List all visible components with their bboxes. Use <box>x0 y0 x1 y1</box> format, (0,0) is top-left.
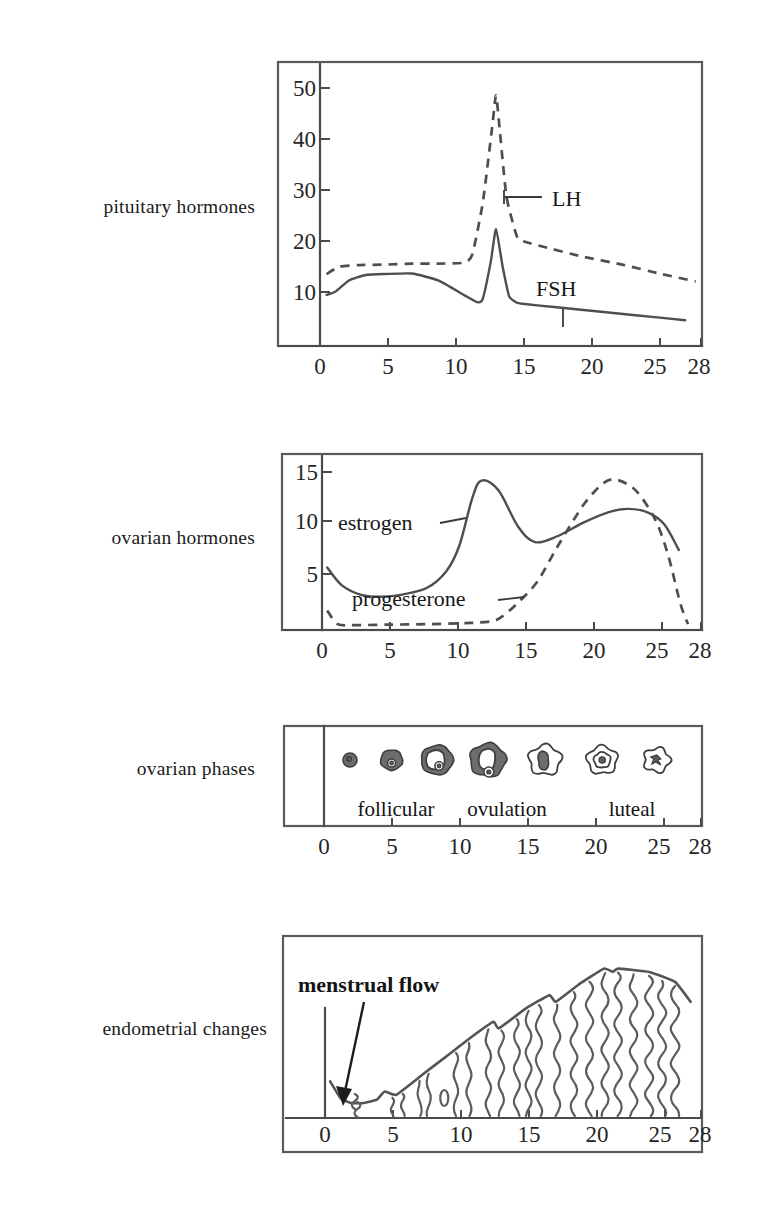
y-axis-ticks <box>322 472 332 574</box>
corpus-hemorrhagicum-clot <box>538 751 549 770</box>
y-tick-label-5: 5 <box>307 562 319 587</box>
menstrual-cycle-figure: pituitary hormones ovarian hormones ovar… <box>0 0 776 1205</box>
graafian-follicle-nucleus <box>487 770 491 774</box>
series-label-fsh: FSH <box>536 276 576 301</box>
estrogen-leader <box>440 518 466 523</box>
primary-follicle-nucleus <box>390 761 394 765</box>
chart-ovarian-phases: 0 5 10 15 20 25 28 follicular ovulation … <box>272 720 708 860</box>
y-tick-label-30: 30 <box>293 178 316 203</box>
x-tick-label-10: 10 <box>447 638 470 663</box>
y-tick-label-10: 10 <box>295 509 318 534</box>
x-tick-label-15: 15 <box>513 354 536 379</box>
x-tick-label-25: 25 <box>648 834 671 859</box>
row-label-pituitary-hormones: pituitary hormones <box>0 196 255 218</box>
x-axis-ticks <box>320 336 701 346</box>
gland <box>526 1011 532 1116</box>
follicle-pictograms <box>343 742 672 777</box>
gland <box>454 1053 459 1116</box>
x-tick-label-25: 25 <box>644 354 667 379</box>
chart-frame <box>282 454 702 630</box>
x-axis-ticks <box>325 1108 701 1118</box>
x-tick-label-10: 10 <box>450 1122 473 1147</box>
x-tick-label-15: 15 <box>517 834 540 859</box>
row-label-ovarian-hormones: ovarian hormones <box>0 527 255 549</box>
x-tick-label-28: 28 <box>689 834 712 859</box>
x-tick-label-5: 5 <box>382 354 394 379</box>
gland <box>586 982 593 1116</box>
gland <box>630 974 638 1116</box>
corpus-luteum-core <box>599 757 605 763</box>
gland <box>514 1019 520 1116</box>
gland <box>671 986 680 1116</box>
y-tick-label-10: 10 <box>293 280 316 305</box>
x-tick-label-15: 15 <box>515 638 538 663</box>
gland <box>645 976 653 1116</box>
x-tick-label-5: 5 <box>387 1122 399 1147</box>
x-tick-label-5: 5 <box>386 834 398 859</box>
graafian-follicle-antrum <box>479 749 495 770</box>
x-tick-label-20: 20 <box>581 354 604 379</box>
x-tick-label-10: 10 <box>445 354 468 379</box>
y-tick-label-15: 15 <box>295 460 318 485</box>
y-tick-label-40: 40 <box>293 127 316 152</box>
chart-pituitary-hormones: 50 40 30 20 10 0 5 10 15 20 25 28 <box>272 56 708 396</box>
row-label-ovarian-phases: ovarian phases <box>0 758 255 780</box>
gland <box>658 981 666 1116</box>
chart-frame <box>278 62 702 346</box>
x-tick-label-0: 0 <box>318 834 330 859</box>
series-label-progesterone: progesterone <box>352 586 466 611</box>
phase-label-luteal: luteal <box>609 797 656 821</box>
x-tick-label-28: 28 <box>688 354 711 379</box>
gland <box>427 1074 431 1116</box>
x-tick-label-20: 20 <box>586 1122 609 1147</box>
gland <box>601 973 608 1116</box>
phase-label-ovulation: ovulation <box>467 797 547 821</box>
series-line-estrogen <box>327 480 679 596</box>
series-line-lh <box>327 95 696 281</box>
lh-leader <box>504 190 542 204</box>
x-tick-label-25: 25 <box>646 638 669 663</box>
gland <box>466 1043 471 1116</box>
gland <box>536 1005 542 1116</box>
y-tick-label-50: 50 <box>293 76 316 101</box>
primordial-follicle-oocyte <box>347 757 352 762</box>
series-label-estrogen: estrogen <box>338 510 413 535</box>
x-tick-label-28: 28 <box>689 638 712 663</box>
chart-endometrial-changes: 0 5 10 15 20 25 28 menstrual flow <box>272 930 708 1158</box>
gland <box>486 1029 491 1116</box>
x-tick-label-20: 20 <box>583 638 606 663</box>
row-label-endometrial-changes: endometrial changes <box>0 1018 267 1040</box>
x-tick-label-25: 25 <box>649 1122 672 1147</box>
gland <box>417 1081 421 1116</box>
y-axis-ticks <box>320 88 330 292</box>
annotation-menstrual-flow: menstrual flow <box>298 972 439 997</box>
menstrual-flow-arrow <box>336 1002 364 1106</box>
series-label-lh: LH <box>552 186 581 211</box>
gland <box>614 973 622 1116</box>
secondary-follicle-nucleus <box>437 764 441 768</box>
series-line-fsh <box>327 229 686 320</box>
y-tick-label-20: 20 <box>293 229 316 254</box>
gland-lumen <box>440 1090 448 1106</box>
gland <box>570 992 577 1116</box>
x-tick-label-10: 10 <box>449 834 472 859</box>
x-tick-label-0: 0 <box>319 1122 331 1147</box>
x-tick-label-20: 20 <box>585 834 608 859</box>
chart-ovarian-hormones: 15 10 5 0 5 10 15 20 25 28 estrogen <box>272 448 708 680</box>
x-tick-label-5: 5 <box>384 638 396 663</box>
x-tick-label-0: 0 <box>316 638 328 663</box>
gland <box>554 1005 560 1116</box>
x-tick-label-28: 28 <box>689 1122 712 1147</box>
chart-frame <box>283 936 702 1152</box>
gland <box>498 1031 504 1117</box>
x-tick-label-15: 15 <box>518 1122 541 1147</box>
x-axis-ticks <box>322 620 701 630</box>
phase-label-follicular: follicular <box>358 797 435 821</box>
gland <box>401 1094 405 1116</box>
x-tick-label-0: 0 <box>314 354 326 379</box>
